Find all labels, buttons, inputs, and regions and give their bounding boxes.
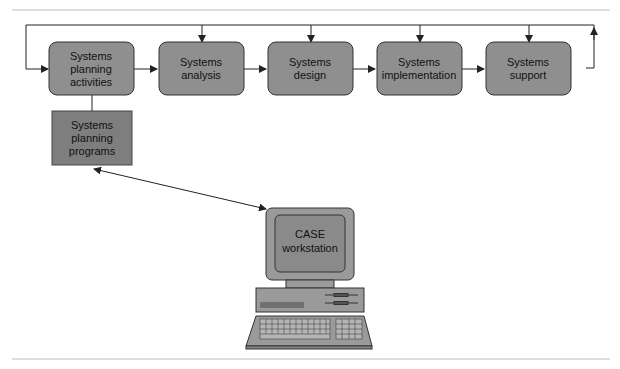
sdlc-case-diagram: Systems planning activities Systems anal… <box>0 0 620 369</box>
phase-analysis: Systems analysis <box>159 42 244 95</box>
svg-text:design: design <box>294 69 326 81</box>
svg-text:analysis: analysis <box>181 69 221 81</box>
planning-programs-box: Systems planning programs <box>52 111 132 165</box>
svg-text:Systems: Systems <box>180 56 223 68</box>
svg-text:Systems: Systems <box>507 56 550 68</box>
phase-planning: Systems planning activities <box>49 42 134 95</box>
svg-text:Systems: Systems <box>289 56 332 68</box>
svg-text:support: support <box>510 69 547 81</box>
phase-implementation: Systems implementation <box>377 42 462 95</box>
svg-text:planning: planning <box>70 63 112 75</box>
svg-text:Systems: Systems <box>398 56 441 68</box>
svg-text:workstation: workstation <box>281 242 338 254</box>
svg-text:planning: planning <box>71 132 113 144</box>
phase-design: Systems design <box>268 42 353 95</box>
bidirectional-arrow <box>94 169 266 209</box>
phase-support: Systems support <box>486 42 571 95</box>
svg-text:programs: programs <box>69 145 116 157</box>
svg-text:CASE: CASE <box>295 228 325 240</box>
svg-text:Systems: Systems <box>70 50 113 62</box>
svg-text:implementation: implementation <box>382 69 457 81</box>
svg-text:Systems: Systems <box>71 119 114 131</box>
svg-text:activities: activities <box>70 76 113 88</box>
